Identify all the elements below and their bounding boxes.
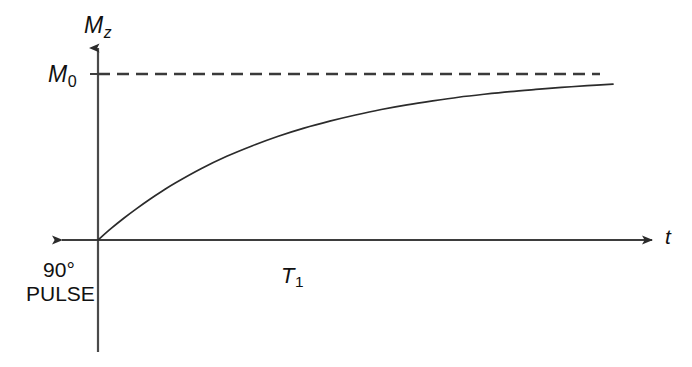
m0-label-subscript: 0 (67, 72, 76, 90)
y-axis-label-base: M (84, 12, 103, 38)
pulse-angle-text: 90° (26, 258, 92, 282)
y-axis-label-subscript: z (103, 24, 111, 41)
plot-canvas (0, 0, 692, 367)
t1-label-subscript: 1 (294, 273, 303, 290)
t1-relaxation-figure: Mz M0 t T1 90° PULSE (0, 0, 692, 367)
y-axis-label: Mz (84, 14, 111, 37)
m0-label: M0 (48, 63, 77, 86)
m0-label-base: M (48, 61, 67, 87)
pulse-annotation: 90° PULSE (26, 258, 92, 306)
t1-label-base: T (281, 263, 294, 288)
t1-label: T1 (281, 265, 304, 287)
pulse-word-text: PULSE (26, 282, 92, 306)
recovery-curve (98, 84, 613, 240)
x-axis-label: t (665, 226, 671, 247)
